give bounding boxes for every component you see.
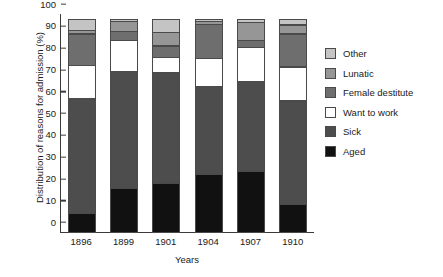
legend-item[interactable]: Other (325, 44, 413, 64)
bar-segment (152, 46, 180, 58)
bar-segment (68, 34, 96, 67)
legend-label: Other (343, 48, 367, 59)
x-tick-label: 1907 (236, 236, 264, 247)
bar-segment (195, 174, 223, 233)
bar-segment (68, 98, 96, 214)
bar-segment (152, 72, 180, 183)
bar-segment (195, 24, 223, 59)
bar-1901[interactable] (152, 14, 180, 232)
bar-segment (195, 86, 223, 174)
bar-segment (68, 213, 96, 233)
bar-segment (279, 204, 307, 232)
legend-item[interactable]: Lunatic (325, 64, 413, 84)
y-axis-title: Distribution of reasons for admission (%… (34, 3, 45, 233)
bar-segment (110, 71, 138, 189)
legend-item[interactable]: Aged (325, 142, 413, 162)
plot-area: 0102030405060708090100 (60, 14, 314, 233)
y-tick-label: 10 (45, 196, 61, 206)
bar-segment (152, 19, 180, 33)
bar-segment (68, 65, 96, 99)
bar-1896[interactable] (68, 14, 96, 232)
y-tick-label: 70 (45, 65, 61, 75)
bar-segment (237, 81, 265, 171)
legend-swatch-icon (325, 107, 336, 118)
x-axis-ticks: 189618991901190419071910 (60, 236, 314, 247)
y-tick-label: 50 (45, 109, 61, 119)
y-tick-label: 100 (40, 0, 61, 9)
bar-segment (110, 188, 138, 233)
legend-label: Female destitute (343, 87, 413, 98)
legend-swatch-icon (325, 146, 336, 157)
legend-swatch-icon (325, 68, 336, 79)
x-tick-label: 1910 (279, 236, 307, 247)
legend-item[interactable]: Female destitute (325, 83, 413, 103)
x-axis-title: Years (60, 254, 314, 265)
legend-swatch-icon (325, 87, 336, 98)
bar-1907[interactable] (237, 14, 265, 232)
y-tick-label: 60 (45, 87, 61, 97)
bar-segment (152, 183, 180, 233)
y-tick-label: 0 (51, 218, 61, 228)
bar-segment (279, 101, 307, 206)
bar-segment (68, 19, 96, 31)
y-tick-label: 20 (45, 174, 61, 184)
bar-segment (279, 34, 307, 68)
chart-legend: OtherLunaticFemale destituteWant to work… (325, 44, 413, 161)
legend-label: Aged (343, 146, 365, 157)
chart-figure: Distribution of reasons for admission (%… (0, 0, 443, 277)
y-tick-label: 40 (45, 131, 61, 141)
bar-segment (152, 32, 180, 46)
y-tick-label: 30 (45, 152, 61, 162)
y-tick-label: 90 (45, 22, 61, 32)
legend-swatch-icon (325, 126, 336, 137)
legend-item[interactable]: Want to work (325, 103, 413, 123)
bar-segment (237, 171, 265, 233)
bar-segment (152, 57, 180, 73)
legend-item[interactable]: Sick (325, 122, 413, 142)
x-tick-label: 1904 (194, 236, 222, 247)
x-tick-label: 1896 (67, 236, 95, 247)
bar-1904[interactable] (195, 14, 223, 232)
bar-segment (237, 22, 265, 41)
legend-swatch-icon (325, 48, 336, 59)
x-tick-label: 1901 (152, 236, 180, 247)
legend-label: Sick (343, 126, 361, 137)
y-tick-label: 80 (45, 43, 61, 53)
bar-segment (237, 47, 265, 82)
bar-segment (195, 58, 223, 87)
bar-segment (279, 67, 307, 102)
bar-group (61, 14, 314, 232)
bar-1899[interactable] (110, 14, 138, 232)
bar-1910[interactable] (279, 14, 307, 232)
x-tick-label: 1899 (109, 236, 137, 247)
bar-segment (110, 40, 138, 72)
legend-label: Want to work (343, 107, 398, 118)
legend-label: Lunatic (343, 68, 374, 79)
